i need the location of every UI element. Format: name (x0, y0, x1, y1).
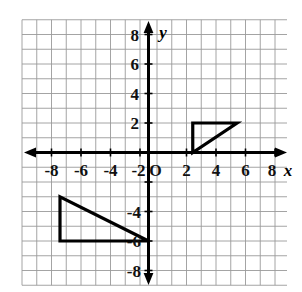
tick-label-x-neg-4: -4 (103, 161, 118, 180)
tick-label-y-neg-4: -4 (127, 203, 142, 222)
tick-label-y-pos-8: 8 (131, 26, 140, 45)
origin-label: O (149, 162, 161, 179)
tick-label-x-pos-2: 2 (182, 161, 191, 180)
coordinate-plane-svg: -8 -6 -4 -2 O 2 4 6 8 8 6 4 2 -4 -6 -8 y… (0, 0, 302, 292)
tick-label-x-neg-8: -8 (44, 161, 58, 180)
y-axis-label: y (157, 23, 167, 42)
coordinate-plane-figure: -8 -6 -4 -2 O 2 4 6 8 8 6 4 2 -4 -6 -8 y… (0, 0, 302, 292)
tick-label-x-pos-4: 4 (212, 161, 221, 180)
tick-label-y-pos-4: 4 (131, 85, 140, 104)
tick-label-y-neg-6: -6 (127, 232, 141, 251)
tick-label-y-pos-6: 6 (131, 55, 140, 74)
tick-label-y-neg-8: -8 (127, 262, 141, 281)
tick-label-x-neg-6: -6 (74, 161, 88, 180)
tick-label-x-pos-6: 6 (241, 161, 250, 180)
tick-label-y-pos-2: 2 (131, 114, 140, 133)
figure-background (0, 0, 302, 292)
tick-label-x-neg-2: -2 (131, 161, 145, 180)
tick-label-x-pos-8: 8 (268, 161, 277, 180)
x-axis-label: x (283, 161, 293, 180)
